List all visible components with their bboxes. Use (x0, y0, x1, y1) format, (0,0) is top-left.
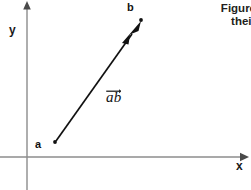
vector-ab-arrowhead-icon (122, 21, 141, 45)
y-axis-arrowhead-icon (23, 1, 31, 10)
point-b-label: b (127, 2, 134, 13)
caption-line-2: their (178, 15, 251, 28)
vector-first-letter: a (106, 89, 114, 105)
y-axis-label: y (9, 24, 16, 36)
point-b-dot (139, 18, 143, 22)
x-axis-label: x (236, 160, 243, 172)
diagram-graphics (0, 0, 251, 190)
vector-diagram-figure: y x a b ab Figure their (0, 0, 251, 190)
point-a-dot (53, 140, 57, 144)
caption-line-1: Figure (178, 2, 251, 15)
vector-second-letter: b (114, 89, 122, 105)
vector-ab-label: ab (106, 88, 121, 105)
vector-ab-label-text: ab (106, 88, 121, 105)
point-a-label: a (35, 139, 41, 150)
figure-caption: Figure their (178, 2, 251, 27)
